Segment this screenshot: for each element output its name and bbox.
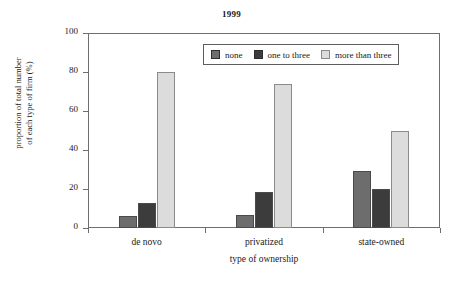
- bar: [157, 72, 175, 228]
- legend-entry: none: [211, 50, 243, 60]
- bar: [391, 131, 409, 229]
- bar: [119, 216, 137, 228]
- x-axis-tick-label: state-owned: [358, 237, 404, 247]
- x-axis-tick-mark: [323, 228, 324, 233]
- bar: [372, 189, 390, 228]
- y-axis-tick-label: 40: [69, 143, 78, 153]
- y-axis-tick-label: 20: [69, 182, 78, 192]
- x-axis-tick-mark: [88, 228, 89, 233]
- y-axis-title-line-2: of each type of firm (%): [24, 13, 35, 193]
- bar: [236, 215, 254, 228]
- y-axis-title: proportion of total number of each type …: [13, 13, 35, 193]
- legend-swatch-icon: [321, 50, 330, 59]
- bar-chart-figure: 1999 020406080100 proportion of total nu…: [0, 0, 463, 287]
- x-axis-tick-label: privatized: [245, 237, 283, 247]
- legend-swatch-icon: [211, 50, 220, 59]
- chart-legend: noneone to threemore than three: [203, 44, 399, 65]
- legend-entry: one to three: [254, 50, 310, 60]
- legend-label: none: [225, 50, 243, 60]
- x-axis-tick-mark: [440, 228, 441, 233]
- legend-entry: more than three: [321, 50, 391, 60]
- legend-swatch-icon: [254, 50, 263, 59]
- y-axis-tick-label: 100: [65, 26, 79, 36]
- y-axis-tick-label: 80: [69, 65, 78, 75]
- bar: [353, 171, 371, 228]
- legend-label: one to three: [268, 50, 310, 60]
- y-axis-title-line-1: proportion of total number: [13, 13, 24, 193]
- bar: [138, 203, 156, 228]
- x-axis-tick-label: de novo: [131, 237, 161, 247]
- legend-label: more than three: [335, 50, 391, 60]
- x-axis-title: type of ownership: [88, 254, 440, 264]
- y-axis-tick-label: 60: [69, 104, 78, 114]
- y-axis-tick-label: 0: [74, 221, 79, 231]
- x-axis-tick-mark: [205, 228, 206, 233]
- bar: [274, 84, 292, 228]
- bar: [255, 192, 273, 228]
